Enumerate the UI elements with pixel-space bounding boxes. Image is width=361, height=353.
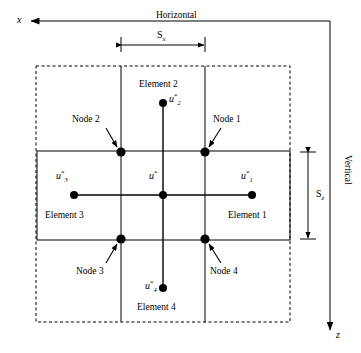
value-label-u2: u*2 bbox=[169, 93, 181, 107]
leader-arrow-node-2 bbox=[106, 128, 117, 147]
element-label-2: Element 2 bbox=[139, 80, 178, 90]
leader-arrow-node-1 bbox=[209, 128, 221, 147]
value-dot-u2 bbox=[159, 99, 167, 107]
u1-subscript: 1 bbox=[250, 176, 253, 183]
node-dot-1 bbox=[200, 147, 209, 156]
node-label-1: Node 1 bbox=[213, 115, 241, 125]
node-label-2: Node 2 bbox=[72, 115, 100, 125]
x-axis-label: x bbox=[17, 15, 21, 25]
u2-subscript: 2 bbox=[178, 99, 181, 106]
node-dot-3 bbox=[116, 234, 125, 243]
sz-dimension-label: Sz bbox=[316, 189, 324, 202]
u4-subscript: 4 bbox=[154, 286, 157, 293]
node-dot-2 bbox=[116, 147, 125, 156]
u3-subscript: 3 bbox=[65, 176, 68, 183]
u-center-superscript: * bbox=[154, 169, 158, 177]
node-label-3: Node 3 bbox=[76, 267, 104, 277]
value-dot-u1 bbox=[248, 191, 256, 199]
node-label-4: Node 4 bbox=[210, 267, 238, 277]
vertical-axis-caption: Vertical bbox=[343, 155, 353, 185]
horizontal-axis-caption: Horizontal bbox=[156, 11, 197, 21]
diagram-vector-layer bbox=[0, 0, 361, 353]
sz-subscript: z bbox=[322, 194, 325, 201]
z-axis-label: z bbox=[336, 330, 340, 340]
diagram-canvas: x z Horizontal Vertical Sx Sz Element 1 … bbox=[0, 0, 361, 353]
element-label-1: Element 1 bbox=[228, 211, 267, 221]
value-dot-u3 bbox=[70, 191, 78, 199]
sx-dimension-label: Sx bbox=[157, 30, 165, 43]
sx-subscript: x bbox=[163, 35, 166, 42]
sz-dimension-bracket bbox=[300, 152, 316, 239]
value-dot-u4 bbox=[159, 284, 167, 292]
element-label-3: Element 3 bbox=[45, 211, 84, 221]
value-label-u1: u*1 bbox=[241, 170, 253, 184]
value-label-u-center: u* bbox=[149, 170, 158, 181]
leader-arrow-node-3 bbox=[106, 244, 117, 263]
axis-frame bbox=[31, 21, 330, 330]
leader-arrow-node-4 bbox=[209, 244, 221, 263]
element-label-4: Element 4 bbox=[137, 303, 176, 313]
value-label-u3: u*3 bbox=[56, 170, 68, 184]
node-dot-4 bbox=[200, 234, 209, 243]
value-label-u4: u*4 bbox=[145, 280, 157, 294]
value-dot-u-center bbox=[159, 191, 167, 199]
